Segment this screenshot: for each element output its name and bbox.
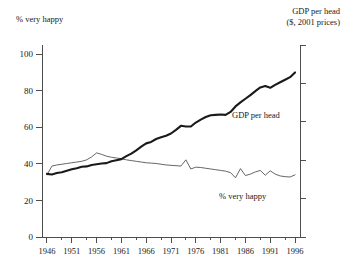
- y-tick-label: 100: [20, 49, 34, 59]
- x-tick-label: 1966: [138, 246, 155, 256]
- x-tick-label: 1996: [287, 246, 304, 256]
- y-tick-label: 80: [24, 86, 34, 96]
- x-tick-label: 1946: [38, 246, 55, 256]
- right-axis-caption-line2: ($, 2001 prices): [286, 17, 340, 27]
- y-tick-label: 60: [24, 122, 34, 132]
- annotation-percent-very-happy: % very happy: [219, 191, 267, 201]
- chart-figure: % very happy GDP per head ($, 2001 price…: [0, 0, 344, 265]
- y-tick-label: 20: [24, 196, 34, 206]
- right-axis-caption-line1: GDP per head: [292, 6, 341, 16]
- x-tick-label: 1956: [88, 246, 105, 256]
- x-tick-label: 1991: [262, 246, 279, 256]
- x-tick-label: 1961: [113, 246, 130, 256]
- happiness-gdp-line-chart: % very happy GDP per head ($, 2001 price…: [0, 0, 344, 265]
- x-tick-label: 1951: [63, 246, 80, 256]
- x-axis-tick-labels: 1946195119561961196619711976198119861991…: [38, 246, 303, 256]
- y-tick-label: 0: [29, 232, 34, 242]
- x-tick-label: 1986: [237, 246, 254, 256]
- x-tick-label: 1971: [163, 246, 180, 256]
- x-tick-label: 1981: [212, 246, 229, 256]
- annotation-gdp-per-head: GDP per head: [232, 110, 281, 120]
- x-tick-label: 1976: [187, 246, 204, 256]
- left-axis-caption: % very happy: [16, 14, 64, 24]
- y-tick-label: 40: [24, 159, 34, 169]
